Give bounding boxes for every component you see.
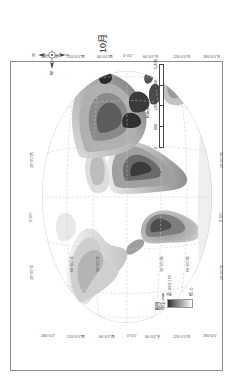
coord-left-180: 180°0'0" <box>41 334 55 338</box>
scale-bar-title: Miles <box>145 108 150 118</box>
rotated-figure-canvas: 60°0'0"北 30°0'0"北 30°0'0"南 60°0'0"南 30°0… <box>0 0 233 389</box>
compass-west-label: W <box>49 71 54 75</box>
legend-color-ramp <box>167 299 193 308</box>
scale-seg-4 <box>160 65 163 85</box>
coord-left-180b: 180°0'0" <box>203 334 217 338</box>
coord-left-60w: 60°0'0"西 <box>99 334 115 339</box>
coord-left-120w: 120°0'0"西 <box>67 334 85 339</box>
legend-unit: 单位: mm <box>160 248 165 310</box>
map-figure: 60°0'0"北 30°0'0"北 30°0'0"南 60°0'0"南 30°0… <box>0 0 233 389</box>
coord-bottom-0: 0°0'0" <box>219 212 223 222</box>
coord-inner-north-30: 30°0'0"北 <box>95 256 100 272</box>
scale-seg-2 <box>160 106 163 127</box>
coord-right-120e: 120°0'0"东 <box>173 54 191 59</box>
coord-left-60e: 60°0'0"东 <box>145 334 161 339</box>
legend-ramp-wrapper: 高: 963.176 低: 0 <box>167 299 193 308</box>
scale-seg-1 <box>160 126 163 147</box>
coord-top-30w: 30°0'0"西 <box>29 152 34 168</box>
scale-tick-1800: 1,800 <box>153 101 158 111</box>
coord-bottom-30e: 30°0'0"东 <box>219 264 224 280</box>
compass-north-label: N <box>31 53 36 56</box>
map-frame: 60°0'0"北 30°0'0"北 30°0'0"南 60°0'0"南 30°0… <box>27 50 228 344</box>
coord-right-180e: 180°0'0"东 <box>203 54 221 59</box>
coord-right-60w: 60°0'0"西 <box>97 54 113 59</box>
legend-max-value: 高: 963.176 <box>166 275 172 296</box>
compass-south-label: S <box>65 54 70 57</box>
coord-left-120e: 120°0'0"东 <box>173 334 191 339</box>
coord-top-30e: 30°0'0"东 <box>29 264 34 280</box>
legend-min-value: 低: 0 <box>188 288 194 296</box>
coord-top-0: 0°0'0" <box>29 212 33 222</box>
coord-right-0: 0°0'0" <box>123 54 133 58</box>
figure-caption: 10月 <box>96 34 109 53</box>
scale-tick-0: 0 <box>153 147 158 149</box>
scale-seg-3 <box>160 85 163 106</box>
coord-inner-north-60: 60°0'0"北 <box>69 256 74 272</box>
figure-frame: 60°0'0"北 30°0'0"北 30°0'0"南 60°0'0"南 30°0… <box>10 61 223 371</box>
compass-icon <box>35 50 69 72</box>
scale-bar: Miles 0 900 1,800 3,600 5,400 <box>145 62 171 148</box>
scale-tick-5400: 5,400 <box>153 59 158 69</box>
scale-tick-900: 900 <box>153 124 158 131</box>
scale-tick-3600: 3,600 <box>153 80 158 90</box>
coord-left-0: 0°0'0" <box>127 334 137 338</box>
coord-bottom-30w: 30°0'0"西 <box>219 152 224 168</box>
compass-rose: N S E W <box>35 50 69 72</box>
scale-bar-segments <box>159 64 164 148</box>
legend: 图例 单位: mm 高: 963.176 低: 0 <box>155 248 199 310</box>
